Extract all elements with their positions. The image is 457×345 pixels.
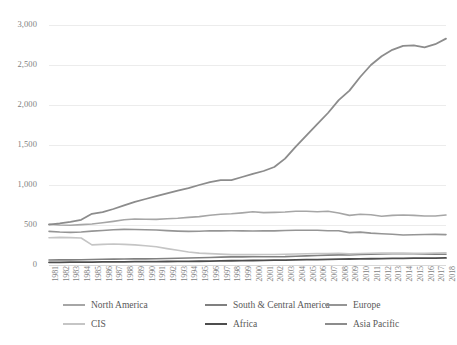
x-axis-tick-label: 2014: [406, 266, 414, 282]
legend-line-swatch: [205, 323, 227, 325]
legend-item-africa[interactable]: Africa: [205, 316, 257, 332]
x-axis-tick-label: 1988: [127, 266, 135, 282]
x-axis-tick-label: 2018: [449, 266, 457, 282]
x-axis-tick-label: 1989: [138, 266, 146, 282]
chart-legend: North AmericaSouth & Central AmericaEuro…: [0, 297, 454, 341]
y-axis-tick-label: 1,000: [0, 180, 44, 189]
legend-item-europe[interactable]: Europe: [325, 297, 380, 313]
x-axis-tick-label: 2006: [320, 266, 328, 282]
legend-line-swatch: [205, 304, 227, 306]
legend-row: CISAfricaAsia Pacific: [0, 316, 454, 334]
x-axis-tick-label: 2009: [352, 266, 360, 282]
y-axis-tick-label: 500: [0, 220, 44, 229]
legend-label: Africa: [233, 319, 257, 329]
series-line-asia-pacific: [49, 39, 446, 225]
x-axis-tick-label: 2013: [395, 266, 403, 282]
x-axis-tick-label: 1993: [181, 266, 189, 282]
x-axis-tick-label: 1995: [202, 266, 210, 282]
x-axis-tick-label: 1994: [191, 266, 199, 282]
legend-label: CIS: [91, 319, 106, 329]
x-axis-tick-label: 1990: [149, 266, 157, 282]
x-axis-tick-label: 1999: [245, 266, 253, 282]
legend-label: Asia Pacific: [353, 319, 399, 329]
gridlines: [49, 25, 446, 265]
x-axis-tick-label: 2012: [385, 266, 393, 282]
x-axis-tick-label: 1998: [234, 266, 242, 282]
x-axis-tick-label: 2017: [438, 266, 446, 282]
x-axis-tick-label: 1983: [73, 266, 81, 282]
legend-label: Europe: [353, 300, 380, 310]
legend-line-swatch: [325, 304, 347, 306]
y-axis-tick-label: 1,500: [0, 140, 44, 149]
x-axis-tick-label: 2003: [288, 266, 296, 282]
x-axis-tick-label: 1984: [84, 266, 92, 282]
x-axis-tick-label: 1986: [106, 266, 114, 282]
x-axis-tick-label: 2015: [417, 266, 425, 282]
y-axis-tick-label: 2,500: [0, 60, 44, 69]
y-axis-ticks: 05001,0001,5002,0002,5003,000: [0, 0, 44, 290]
x-axis-tick-label: 2008: [342, 266, 350, 282]
x-axis-tick-label: 1981: [52, 266, 60, 282]
y-axis-tick-label: 3,000: [0, 20, 44, 29]
y-axis-tick-label: 0: [0, 260, 44, 269]
legend-item-asia-pacific[interactable]: Asia Pacific: [325, 316, 399, 332]
legend-item-north-america[interactable]: North America: [63, 297, 148, 313]
legend-label: South & Central America: [233, 300, 330, 310]
x-axis-tick-label: 2007: [331, 266, 339, 282]
x-axis-tick-label: 2010: [363, 266, 371, 282]
x-axis-tick-label: 1987: [116, 266, 124, 282]
y-axis-tick-label: 2,000: [0, 100, 44, 109]
x-axis-tick-label: 2011: [374, 266, 382, 281]
x-axis-tick-label: 2001: [267, 266, 275, 282]
legend-line-swatch: [63, 323, 85, 325]
legend-label: North America: [91, 300, 148, 310]
legend-line-swatch: [325, 323, 347, 325]
x-axis-tick-label: 1985: [95, 266, 103, 282]
x-axis-tick-label: 1991: [159, 266, 167, 282]
legend-item-cis[interactable]: CIS: [63, 316, 106, 332]
x-axis-tick-label: 2000: [256, 266, 264, 282]
series-line-north-america: [49, 211, 446, 225]
x-axis-tick-label: 2016: [428, 266, 436, 282]
x-axis-tick-label: 1992: [170, 266, 178, 282]
series-lines: [49, 39, 446, 263]
legend-row: North AmericaSouth & Central AmericaEuro…: [0, 297, 454, 315]
x-axis-tick-label: 2002: [277, 266, 285, 282]
x-axis-tick-label: 1997: [224, 266, 232, 282]
x-axis-tick-label: 2004: [299, 266, 307, 282]
x-axis-tick-label: 1982: [63, 266, 71, 282]
plot-svg: [0, 0, 454, 290]
x-axis-tick-label: 1996: [213, 266, 221, 282]
x-axis-tick-label: 2005: [310, 266, 318, 282]
x-axis-ticks: 1981198219831984198519861987198819891990…: [49, 266, 449, 296]
legend-line-swatch: [63, 304, 85, 306]
legend-item-south-central-america[interactable]: South & Central America: [205, 297, 330, 313]
plot-area: 05001,0001,5002,0002,5003,000: [0, 0, 454, 290]
series-line-cis: [49, 237, 446, 254]
series-line-europe: [49, 229, 446, 235]
